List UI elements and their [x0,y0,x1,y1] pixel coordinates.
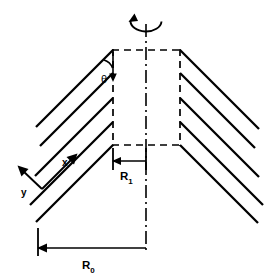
rotation-arrow-icon [129,14,162,32]
r1-label: R1 [120,170,133,186]
blade-line [36,50,113,127]
theta-label: θ [101,73,107,85]
blade-line [180,98,259,177]
r0-label: R0 [82,259,95,274]
figure-container: θ R1 x y [0,0,275,274]
svg-text:R0: R0 [82,259,95,274]
x-axis-line [42,158,73,189]
r1-dimension [112,148,146,170]
y-axis-label: y [21,187,27,198]
rotor-schematic: θ R1 x y [0,0,275,274]
x-axis-label: x [62,157,68,168]
blade-group-right [180,50,263,223]
r0-dimension [37,228,146,256]
blade-line [180,50,259,129]
blade-line [180,145,258,223]
svg-text:R1: R1 [120,170,133,186]
r1-subscript: 1 [128,177,133,186]
coordinate-axes [18,154,78,190]
blade-line [30,122,113,205]
blade-line [180,122,263,205]
r0-subscript: 0 [90,266,95,274]
